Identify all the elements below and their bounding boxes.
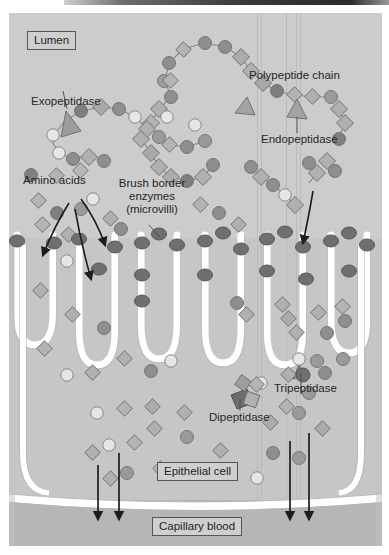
tripeptidase-complex [281,353,324,382]
label-brush-border-line-2: enzymes [109,190,195,203]
diagram-plate: Lumen Polypeptide chain Exopeptidase End… [9,13,382,546]
endopeptidase-wedge-right [287,99,307,119]
label-tripeptidase: Tripeptidase [274,382,337,395]
endopeptidase-wedge-left [235,97,255,115]
region-label-epithelial-cell: Epithelial cell [157,462,238,481]
region-label-lumen: Lumen [27,31,76,50]
label-polypeptide-chain: Polypeptide chain [249,69,340,82]
label-amino-acids: Amino acids [23,174,86,187]
label-brush-border-line-3: (microvilli) [109,203,195,216]
figure-canvas: Lumen Polypeptide chain Exopeptidase End… [0,0,389,555]
region-label-capillary-blood: Capillary blood [152,517,242,536]
label-exopeptidase: Exopeptidase [31,95,101,108]
label-brush-border-line-1: Brush border [109,177,195,190]
scan-artifact-bar [64,0,389,5]
label-brush-border-enzymes: Brush border enzymes (microvilli) [109,177,195,216]
dipeptidase-complex [231,375,264,409]
label-endopeptidase: Endopeptidase [261,133,338,146]
label-dipeptidase: Dipeptidase [209,411,270,424]
